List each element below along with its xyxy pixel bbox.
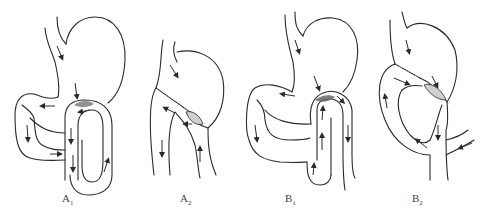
panel-b1: B1 bbox=[235, 0, 370, 215]
panel-label-b2: B2 bbox=[412, 192, 423, 207]
panel-a2: A2 bbox=[120, 0, 240, 215]
b2-diagram bbox=[360, 0, 484, 215]
a2-diagram bbox=[120, 0, 240, 215]
panel-label-a2: A2 bbox=[180, 192, 191, 207]
panel-label-a1: A1 bbox=[62, 192, 73, 207]
panel-a1: A1 bbox=[0, 0, 130, 215]
panel-b2: B2 bbox=[360, 0, 484, 215]
panel-label-b1: B1 bbox=[285, 192, 296, 207]
a1-diagram bbox=[0, 0, 130, 215]
b1-diagram bbox=[235, 0, 370, 215]
